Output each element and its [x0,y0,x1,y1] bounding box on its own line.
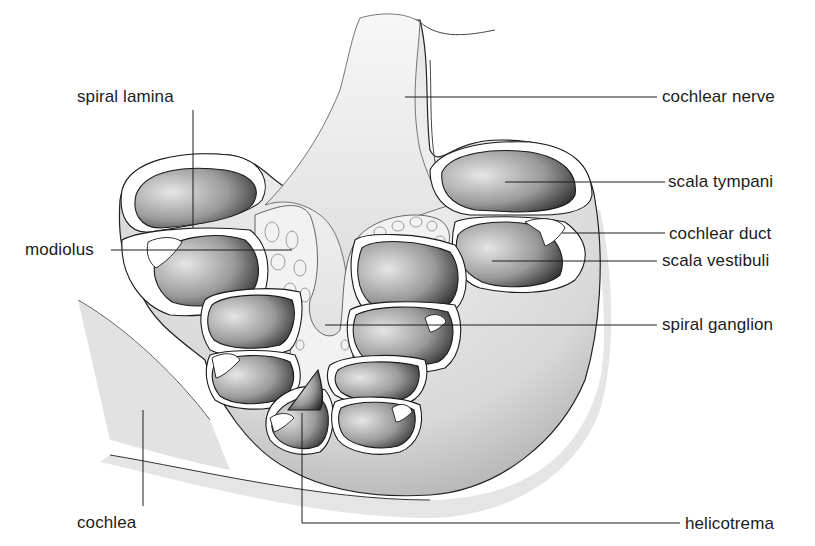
label-scala-vestibuli: scala vestibuli [662,252,769,269]
label-helicotrema: helicotrema [685,515,774,532]
label-cochlear-nerve: cochlear nerve [662,88,775,105]
cochlea-illustration [0,0,815,546]
label-scala-tympani: scala tympani [668,173,773,190]
label-spiral-lamina: spiral lamina [77,88,174,105]
label-spiral-ganglion: spiral ganglion [662,316,773,333]
label-cochlear-duct: cochlear duct [669,225,771,242]
cochlea-diagram: spiral lamina modiolus cochlea cochlear … [0,0,815,546]
label-modiolus: modiolus [25,241,94,258]
label-cochlea: cochlea [77,514,136,531]
